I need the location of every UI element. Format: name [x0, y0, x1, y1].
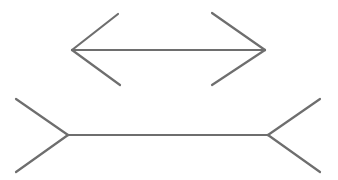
muller-lyer-figure — [0, 0, 338, 180]
figure-canvas — [0, 0, 338, 180]
background — [0, 0, 338, 180]
